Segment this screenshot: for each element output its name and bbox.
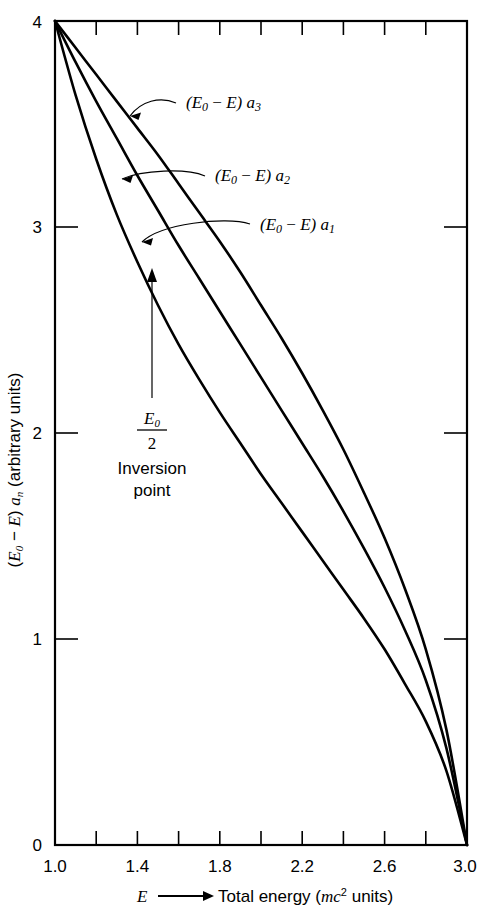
callout-a3 [130, 100, 176, 120]
x-axis-ticks-top [96, 21, 426, 35]
y-tick-label-0: 0 [33, 836, 42, 855]
curve-a1 [55, 21, 467, 845]
arrowhead-a1 [142, 238, 153, 246]
inversion-label-line1: Inversion [118, 459, 187, 478]
arrowhead-inversion [147, 268, 157, 282]
curve-a2 [55, 21, 467, 845]
callout-a1 [142, 221, 250, 246]
y-tick-label-3: 3 [33, 218, 42, 237]
y-axis-ticks-right [444, 227, 467, 639]
inversion-denominator: 2 [148, 434, 157, 453]
x-tick-label-1-8: 1.8 [208, 857, 232, 876]
plot-frame [55, 21, 467, 845]
x-tick-label-2-6: 2.6 [373, 857, 397, 876]
curve-a3 [55, 21, 467, 845]
x-tick-label-1-4: 1.4 [126, 857, 150, 876]
inversion-label-line2: point [134, 481, 171, 500]
y-axis-title: (E0 − E) an (arbitrary units) [5, 373, 25, 568]
y-axis-ticks-left [55, 227, 78, 639]
x-tick-label-2-2: 2.2 [290, 857, 314, 876]
x-tick-label-3-0: 3.0 [453, 857, 477, 876]
inversion-numerator: E0 [143, 409, 160, 429]
chart-svg: 0 1 2 3 4 1.0 1.4 1.8 2.2 2.6 3.0 (E0 − … [0, 0, 488, 914]
y-tick-label-4: 4 [33, 13, 42, 32]
y-tick-label-1: 1 [33, 630, 42, 649]
figure-container: 0 1 2 3 4 1.0 1.4 1.8 2.2 2.6 3.0 (E0 − … [0, 0, 488, 914]
y-tick-label-2: 2 [33, 424, 42, 443]
curve-label-a1: (E0 − E) a1 [260, 215, 335, 236]
x-tick-label-1-0: 1.0 [43, 857, 67, 876]
x-axis-ticks-bottom [96, 831, 426, 845]
x-axis-title-arrow [158, 891, 214, 901]
curve-label-a2: (E0 − E) a2 [215, 166, 290, 187]
curve-label-a3: (E0 − E) a3 [186, 93, 261, 114]
x-axis-title-text: Total energy (mc2 units) [218, 886, 393, 906]
x-axis-title-symbol: E [136, 887, 148, 906]
